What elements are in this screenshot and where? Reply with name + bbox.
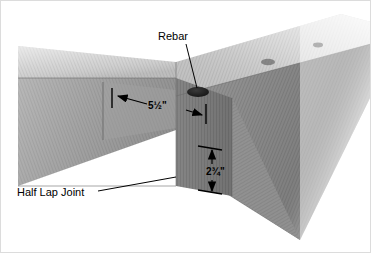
left-beam-top-face (18, 46, 176, 78)
half-lap-leader-line (98, 177, 176, 191)
height-dimension-label: 2¾" (206, 166, 225, 177)
rebar-hole-tertiary (313, 43, 323, 48)
illustration-page: Corner Detail (0, 0, 371, 253)
rebar-hole-secondary (261, 59, 275, 65)
half-lap-joint-label: Half Lap Joint (17, 186, 84, 198)
rebar-label: Rebar (158, 30, 188, 42)
width-dimension-label: 5½" (148, 100, 167, 111)
rebar-hole-primary (187, 87, 209, 97)
